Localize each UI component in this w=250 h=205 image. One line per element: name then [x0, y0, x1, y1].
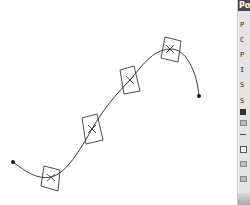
spline-curve[interactable] — [13, 49, 199, 178]
spline-definition-panel: Po P C P I S S — [237, 0, 249, 205]
panel-row-label: S — [240, 97, 244, 105]
point-cross-icon — [88, 125, 96, 133]
panel-row-label: P — [240, 51, 244, 59]
panel-title[interactable]: Po — [238, 0, 249, 11]
option-icon[interactable] — [240, 176, 247, 182]
panel-row-label: P — [240, 21, 244, 29]
panel-row-label: S — [240, 81, 244, 89]
underline-icon — [240, 134, 246, 135]
toolbar-icon[interactable] — [240, 109, 246, 115]
option-icon[interactable] — [240, 161, 247, 167]
panel-row-label: C — [240, 36, 244, 44]
control-point-2[interactable] — [82, 114, 103, 144]
spline-canvas[interactable] — [0, 0, 237, 205]
3d-viewport[interactable] — [0, 0, 237, 205]
control-point-3[interactable] — [120, 66, 140, 94]
spline-end-point[interactable] — [197, 94, 201, 98]
panel-row-label: I — [240, 66, 244, 74]
point-cross-icon — [126, 76, 134, 84]
option-checkbox[interactable] — [240, 146, 247, 153]
control-point-1[interactable] — [41, 166, 60, 191]
panel-footer — [238, 193, 249, 205]
tool-icon[interactable] — [240, 120, 247, 126]
spline-start-point[interactable] — [11, 160, 15, 164]
